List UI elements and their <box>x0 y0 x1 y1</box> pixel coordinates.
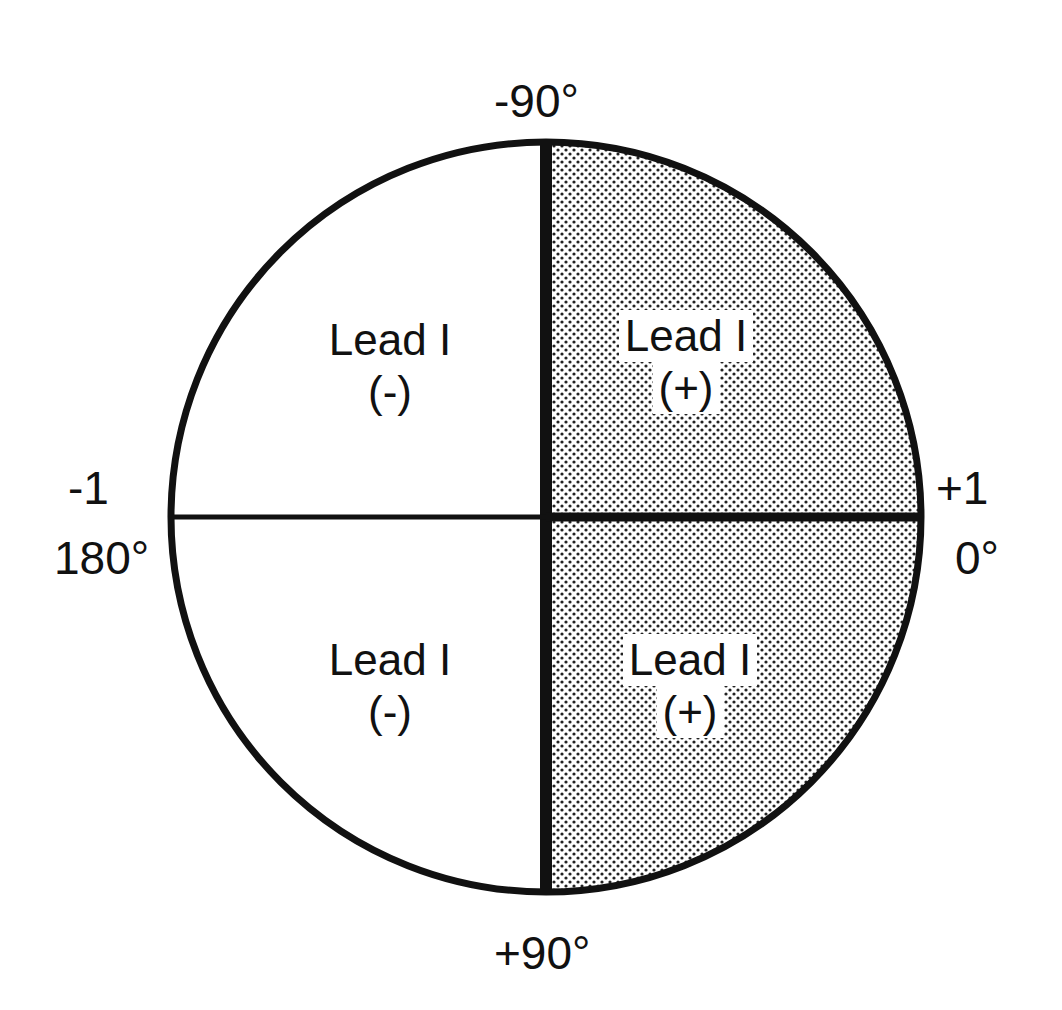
label-0: 0° <box>955 535 999 581</box>
quadrant-lead-label: Lead I <box>623 634 757 686</box>
label-plus-90: +90° <box>494 930 590 976</box>
quadrant-polarity: (-) <box>290 366 490 418</box>
label-plus-1: +1 <box>936 465 988 511</box>
quadrant-polarity: (+) <box>657 686 724 738</box>
quadrant-lead-label: Lead I <box>290 314 490 366</box>
quadrant-lead-label: Lead I <box>619 310 753 362</box>
quadrant-lower-left: Lead I (-) <box>290 634 490 738</box>
label-minus-90: -90° <box>494 78 579 124</box>
quadrant-lead-label: Lead I <box>290 634 490 686</box>
quadrant-lower-right: Lead I (+) <box>600 634 780 738</box>
label-minus-1: -1 <box>68 465 109 511</box>
quadrant-polarity: (-) <box>290 686 490 738</box>
hexaxial-circle-diagram <box>0 0 1062 1010</box>
label-180: 180° <box>54 535 149 581</box>
quadrant-upper-left: Lead I (-) <box>290 314 490 418</box>
quadrant-polarity: (+) <box>653 362 720 414</box>
quadrant-upper-right: Lead I (+) <box>596 310 776 414</box>
